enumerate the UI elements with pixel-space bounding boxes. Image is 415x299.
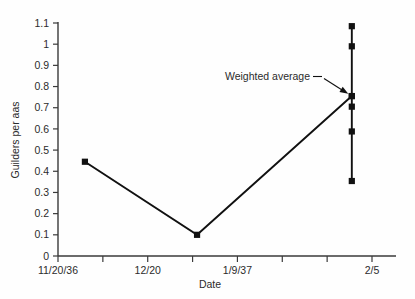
y-tick-label: 1.1 [34,17,49,29]
data-marker [349,128,355,134]
line-chart-plot: 00.10.20.30.40.50.60.70.80.911.1 11/20/3… [0,0,415,299]
y-tick-label: 0.2 [34,207,49,219]
y-tick-label: 1 [43,38,49,50]
series-line-weighted-average [85,96,352,235]
x-axis-ticks [58,256,372,262]
x-axis: 11/20/3612/201/9/372/5 [38,256,396,276]
data-marker [349,178,355,184]
x-axis-title: Date [199,278,221,290]
y-tick-label: 0 [43,250,49,262]
y-axis-tick-labels: 00.10.20.30.40.50.60.70.80.911.1 [34,17,49,262]
annotation-label: Weighted average [225,70,310,82]
y-axis: 00.10.20.30.40.50.60.70.80.911.1 [34,17,58,262]
data-marker [349,93,355,99]
y-tick-label: 0.7 [34,101,49,113]
y-tick-label: 0.9 [34,59,49,71]
annotation-arrow-head [339,87,348,94]
y-tick-label: 0.5 [34,144,49,156]
x-axis-tick-labels: 11/20/3612/201/9/372/5 [38,264,379,276]
x-tick-label: 1/9/37 [223,264,252,276]
data-marker [349,23,355,29]
y-axis-title: Guilders per aas [9,101,21,178]
y-tick-label: 0.4 [34,165,49,177]
x-tick-label: 12/20 [135,264,161,276]
annotation-weighted-average: Weighted average [225,70,348,94]
data-marker [349,43,355,49]
data-series-group [82,23,355,238]
x-tick-label: 2/5 [365,264,380,276]
y-tick-label: 0.3 [34,186,49,198]
data-marker [349,104,355,110]
y-tick-label: 0.1 [34,228,49,240]
data-marker [82,159,88,165]
y-tick-label: 0.6 [34,123,49,135]
y-tick-label: 0.8 [34,80,49,92]
chart-container: 00.10.20.30.40.50.60.70.80.911.1 11/20/3… [0,0,415,299]
y-axis-ticks [53,23,58,256]
annotation-leader-line [324,79,344,92]
x-tick-label: 11/20/36 [38,264,78,276]
data-marker [194,232,200,238]
